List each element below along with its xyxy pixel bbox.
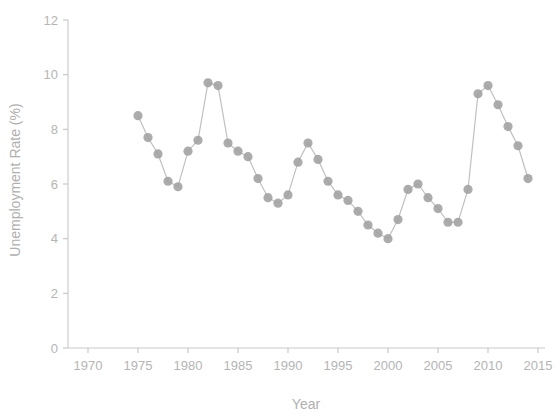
- data-point: [403, 185, 412, 194]
- y-axis-tick-label: 4: [51, 231, 58, 246]
- data-point: [323, 177, 332, 186]
- x-axis-tick-label: 2015: [524, 358, 553, 373]
- series-line: [138, 83, 528, 239]
- data-point: [513, 141, 522, 150]
- data-point: [303, 138, 312, 147]
- y-axis-tick-label: 6: [51, 177, 58, 192]
- data-point: [133, 111, 142, 120]
- data-point: [523, 174, 532, 183]
- data-point: [453, 218, 462, 227]
- data-point: [423, 193, 432, 202]
- data-point: [243, 152, 252, 161]
- x-axis-tick-label: 1980: [174, 358, 203, 373]
- data-point: [143, 133, 152, 142]
- x-axis-tick-label: 2005: [424, 358, 453, 373]
- data-point: [503, 122, 512, 131]
- data-point: [193, 136, 202, 145]
- data-point: [373, 229, 382, 238]
- y-axis-tick-label: 10: [44, 67, 58, 82]
- data-point: [253, 174, 262, 183]
- y-axis-tick-label: 0: [51, 341, 58, 356]
- data-point: [233, 147, 242, 156]
- data-series-unemployment-rate: [133, 78, 532, 243]
- y-axis: 024681012: [44, 13, 68, 356]
- data-point: [463, 185, 472, 194]
- x-axis-tick-label: 2000: [374, 358, 403, 373]
- data-point: [493, 100, 502, 109]
- x-axis-tick-label: 2010: [474, 358, 503, 373]
- data-point: [163, 177, 172, 186]
- data-point: [203, 78, 212, 87]
- data-point: [173, 182, 182, 191]
- data-point: [343, 196, 352, 205]
- x-axis-tick-label: 1970: [74, 358, 103, 373]
- unemployment-rate-chart: 024681012 197019751980198519901995200020…: [0, 0, 557, 419]
- data-point: [313, 155, 322, 164]
- data-point: [383, 234, 392, 243]
- x-axis-title: Year: [292, 396, 321, 412]
- x-axis-tick-label: 1995: [324, 358, 353, 373]
- x-axis: 1970197519801985199019952000200520102015: [68, 348, 552, 373]
- data-point: [353, 207, 362, 216]
- data-point: [153, 149, 162, 158]
- y-axis-title: Unemployment Rate (%): [7, 103, 23, 256]
- data-point: [283, 190, 292, 199]
- data-point: [213, 81, 222, 90]
- data-point: [333, 190, 342, 199]
- data-point: [293, 158, 302, 167]
- data-point: [273, 199, 282, 208]
- y-axis-tick-label: 8: [51, 122, 58, 137]
- x-axis-tick-label: 1985: [224, 358, 253, 373]
- x-axis-tick-label: 1975: [124, 358, 153, 373]
- y-axis-tick-label: 2: [51, 286, 58, 301]
- data-point: [393, 215, 402, 224]
- data-point: [363, 220, 372, 229]
- data-point: [263, 193, 272, 202]
- x-axis-tick-label: 1990: [274, 358, 303, 373]
- data-point: [473, 89, 482, 98]
- data-point: [223, 138, 232, 147]
- y-axis-tick-label: 12: [44, 13, 58, 28]
- chart-canvas: 024681012 197019751980198519901995200020…: [0, 0, 557, 419]
- data-point: [483, 81, 492, 90]
- data-point: [443, 218, 452, 227]
- data-point: [413, 179, 422, 188]
- data-point: [433, 204, 442, 213]
- data-point: [183, 147, 192, 156]
